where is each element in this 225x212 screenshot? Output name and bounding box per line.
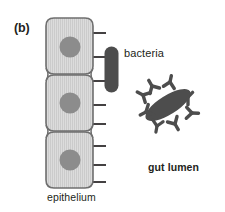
- panel-label: (b): [14, 22, 29, 35]
- antibody: [186, 107, 198, 118]
- bacteria-label: bacteria: [124, 48, 164, 59]
- antibody: [167, 116, 183, 132]
- opsonized-bacterium-group: [135, 74, 199, 132]
- cell-junction: [91, 68, 93, 81]
- epithelial-cell: [46, 132, 93, 188]
- nucleus: [60, 150, 81, 171]
- epithelium-cells: [46, 18, 93, 188]
- epithelium-label: epithelium: [47, 192, 96, 203]
- antibody: [135, 87, 151, 102]
- antibody: [144, 78, 160, 94]
- gut-lumen-label: gut lumen: [148, 162, 199, 173]
- cell-junction: [91, 125, 93, 138]
- microvilli-group: [93, 33, 106, 182]
- diagram-canvas: [0, 0, 225, 212]
- cell-junction: [46, 68, 48, 81]
- nucleus: [60, 93, 81, 114]
- figure-panel-b: (b) bacteria gut lumen epithelium: [0, 0, 225, 212]
- antibody: [163, 74, 176, 88]
- epithelial-cell: [46, 75, 93, 131]
- nucleus: [60, 37, 81, 58]
- epithelial-cell: [46, 18, 93, 74]
- antibody: [151, 120, 163, 133]
- cell-junction: [46, 125, 48, 138]
- adherent-bacterium: [105, 47, 119, 93]
